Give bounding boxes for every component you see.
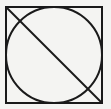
diagram-canvas — [0, 0, 111, 109]
